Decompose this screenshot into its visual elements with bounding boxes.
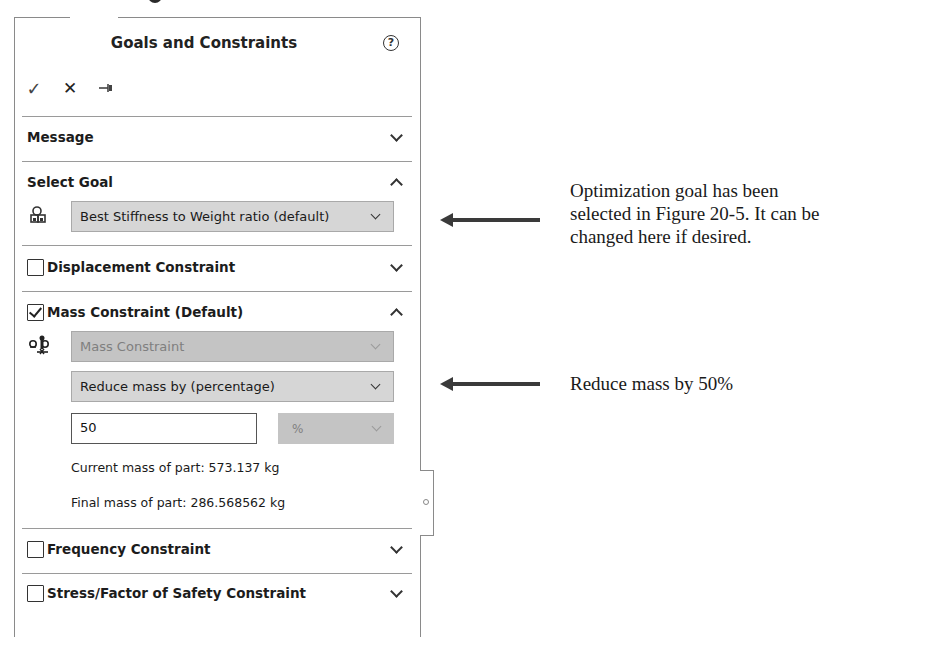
chevron-up-icon[interactable] <box>390 176 402 188</box>
section-stress-label: Stress/Factor of Safety Constraint <box>47 585 306 601</box>
goal-dropdown[interactable]: Best Stiffness to Weight ratio (default) <box>71 201 394 232</box>
unit-dropdown[interactable]: % <box>278 413 394 444</box>
stress-checkbox[interactable] <box>27 585 44 602</box>
mass-type-dropdown[interactable]: Mass Constraint <box>71 331 394 362</box>
panel-border-top-left <box>14 17 70 18</box>
goal-note-line: changed here if desired. <box>570 225 820 248</box>
frequency-checkbox[interactable] <box>27 541 44 558</box>
goal-note-line: selected in Figure 20-5. It can be <box>570 202 820 225</box>
current-mass-text: Current mass of part: 573.137 kg <box>71 460 279 475</box>
panel-resize-tab[interactable] <box>420 470 434 536</box>
mass-annotation-note: Reduce mass by 50% <box>570 372 733 395</box>
chevron-down-icon <box>372 424 382 434</box>
chevron-down-icon <box>371 382 381 392</box>
resize-handle-icon <box>423 499 429 505</box>
divider <box>22 573 412 574</box>
goal-annotation-arrow <box>451 218 540 222</box>
section-displacement-header[interactable]: Displacement Constraint <box>27 256 402 278</box>
tab-joint <box>419 472 422 534</box>
goal-cubes-icon <box>28 205 50 227</box>
mass-mode-value: Reduce mass by (percentage) <box>80 379 275 394</box>
mass-balance-icon <box>28 334 50 356</box>
panel-border-top-right <box>118 17 421 18</box>
chevron-down-icon[interactable] <box>390 261 402 273</box>
divider <box>22 161 412 162</box>
goal-note-line: Optimization goal has been <box>570 179 820 202</box>
chevron-down-icon <box>371 212 381 222</box>
chevron-down-icon[interactable] <box>390 543 402 555</box>
cropped-glyph <box>148 0 162 3</box>
pin-icon[interactable] <box>98 79 114 97</box>
panel-title: Goals and Constraints <box>14 34 394 52</box>
chevron-down-icon <box>371 342 381 352</box>
divider <box>22 245 412 246</box>
ok-checkmark-icon[interactable]: ✓ <box>26 79 42 97</box>
chevron-down-icon[interactable] <box>390 587 402 599</box>
figure: Goals and Constraints ? ✓ ✕ Message Sele… <box>0 0 928 646</box>
divider <box>22 291 412 292</box>
mass-annotation-arrow <box>451 382 540 386</box>
help-icon[interactable]: ? <box>383 35 399 51</box>
divider <box>22 528 412 529</box>
section-displacement-label: Displacement Constraint <box>47 259 235 275</box>
panel-toolbar: ✓ ✕ <box>26 77 114 99</box>
final-mass-text: Final mass of part: 286.568562 kg <box>71 495 285 510</box>
unit-value: % <box>292 422 303 436</box>
chevron-down-icon[interactable] <box>390 131 402 143</box>
section-select-goal-header[interactable]: Select Goal <box>27 171 402 193</box>
section-frequency-label: Frequency Constraint <box>47 541 210 557</box>
section-mass-label: Mass Constraint (Default) <box>47 304 243 320</box>
mass-mode-dropdown[interactable]: Reduce mass by (percentage) <box>71 371 394 402</box>
section-select-goal-label: Select Goal <box>27 174 113 190</box>
divider <box>22 116 412 117</box>
section-stress-header[interactable]: Stress/Factor of Safety Constraint <box>27 582 402 604</box>
section-message-header[interactable]: Message <box>27 126 402 148</box>
displacement-checkbox[interactable] <box>27 259 44 276</box>
section-mass-header[interactable]: Mass Constraint (Default) <box>27 301 402 323</box>
chevron-up-icon[interactable] <box>390 306 402 318</box>
mass-type-value: Mass Constraint <box>80 339 184 354</box>
section-message-label: Message <box>27 129 94 145</box>
goal-annotation-note: Optimization goal has been selected in F… <box>570 179 820 248</box>
goal-dropdown-value: Best Stiffness to Weight ratio (default) <box>80 209 329 224</box>
mass-percentage-input[interactable]: 50 <box>71 413 257 444</box>
cancel-x-icon[interactable]: ✕ <box>62 79 78 97</box>
mass-checkbox[interactable] <box>27 304 44 321</box>
section-frequency-header[interactable]: Frequency Constraint <box>27 538 402 560</box>
